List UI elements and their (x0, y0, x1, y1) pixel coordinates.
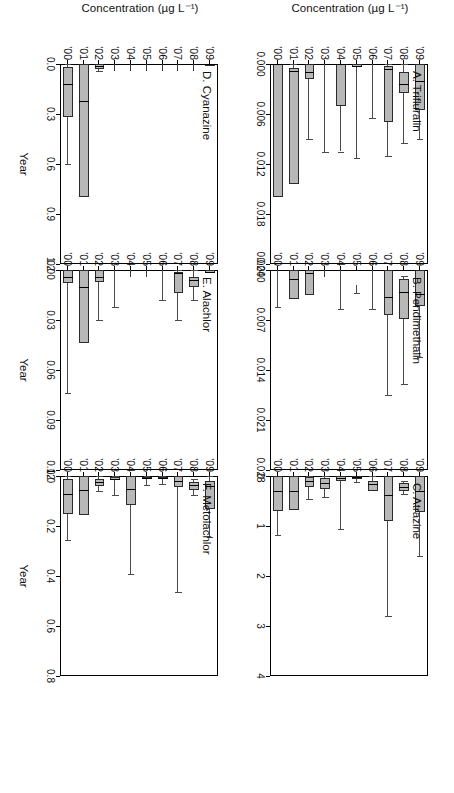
year-tick-label: '04 (335, 458, 347, 472)
year-tick-label: '07 (173, 46, 185, 60)
year-tick-label: '03 (109, 252, 121, 266)
whisker-cap-lower (207, 476, 213, 477)
value-tick-label: 0.000 (255, 257, 266, 282)
year-tick-label: '01 (288, 252, 300, 266)
whisker-cap-upper (417, 556, 423, 557)
value-tick-label: 0.018 (255, 201, 266, 226)
y-axis-title-top: Concentration (µg L⁻¹) (280, 1, 420, 15)
median-line (205, 272, 215, 273)
panel-title-e: E. Alachlor (201, 277, 213, 332)
panel-d: D. Cyanazine0.00.30.60.91.2'00'01'02'03'… (60, 64, 218, 264)
panel-title-a: A. Trifluralin (411, 71, 423, 132)
year-tick-label: '05 (141, 46, 153, 60)
value-tick-mark (56, 264, 60, 265)
year-tick-label: '06 (157, 46, 169, 60)
multi-panel-boxplot-figure: Concentration (µg L⁻¹) Concentration (µg… (0, 0, 454, 793)
year-tick-label: '00 (272, 458, 284, 472)
boxplot-f-09 (60, 476, 218, 676)
value-tick-label: 0.006 (255, 101, 266, 126)
boxplot-a-09 (270, 64, 428, 264)
year-tick-label: '00 (62, 458, 74, 472)
value-tick-mark (56, 676, 60, 677)
value-tick-label: 0.012 (255, 151, 266, 176)
panel-f: F. Metolachlor0.00.20.40.60.8'00'01'02'0… (60, 476, 218, 676)
boxplot-b-09 (270, 270, 428, 470)
year-tick-label: '03 (319, 458, 331, 472)
year-tick-label: '03 (109, 46, 121, 60)
boxplot-e-09 (60, 270, 218, 470)
year-tick-label: '05 (141, 458, 153, 472)
value-tick-label: 0.6 (45, 157, 56, 171)
year-tick-label: '03 (319, 252, 331, 266)
year-tick-label: '01 (78, 252, 90, 266)
year-tick-label: '06 (367, 46, 379, 60)
year-tick-label: '02 (94, 46, 106, 60)
year-tick-label: '04 (125, 252, 137, 266)
year-tick-label: '01 (78, 46, 90, 60)
year-tick-label: '09 (204, 458, 216, 472)
year-tick-label: '09 (414, 458, 426, 472)
panel-title-c: C. Atrazine (411, 483, 423, 539)
x-axis-title-b: Year (18, 270, 30, 470)
value-tick-label: 0 (255, 473, 266, 479)
year-tick-label: '07 (383, 46, 395, 60)
median-line (205, 64, 215, 65)
year-tick-label: '09 (414, 252, 426, 266)
x-axis-title-c: Year (18, 476, 30, 676)
x-axis-title-a: Year (18, 64, 30, 264)
year-tick-label: '08 (398, 458, 410, 472)
year-tick-label: '01 (78, 458, 90, 472)
year-tick-label: '08 (398, 46, 410, 60)
year-tick-label: '00 (62, 46, 74, 60)
value-tick-label: 0.2 (45, 519, 56, 533)
value-tick-label: 0.3 (45, 107, 56, 121)
value-tick-mark (266, 470, 270, 471)
panel-a: A. Trifluralin0.0000.0060.0120.0180.024'… (270, 64, 428, 264)
year-tick-label: '02 (94, 458, 106, 472)
value-tick-label: 0.8 (45, 669, 56, 683)
year-tick-label: '07 (383, 252, 395, 266)
year-tick-label: '05 (141, 252, 153, 266)
year-tick-label: '03 (319, 46, 331, 60)
value-tick-label: 0.021 (255, 407, 266, 432)
value-tick-mark (56, 470, 60, 471)
figure-rotator: Concentration (µg L⁻¹) Concentration (µg… (0, 0, 454, 793)
panel-e: E. Alachlor0.000.030.060.090.12'00'01'02… (60, 270, 218, 470)
whisker-cap-upper (417, 139, 423, 140)
value-tick-label: 0.06 (45, 360, 56, 379)
year-tick-label: '07 (173, 252, 185, 266)
year-tick-label: '02 (94, 252, 106, 266)
year-tick-label: '07 (383, 458, 395, 472)
panel-c: C. Atrazine01234'00'01'02'03'04'05'06'07… (270, 476, 428, 676)
year-tick-label: '09 (414, 46, 426, 60)
value-tick-mark (266, 264, 270, 265)
year-tick-label: '09 (204, 252, 216, 266)
panel-title-d: D. Cyanazine (201, 71, 213, 140)
value-tick-label: 1 (255, 523, 266, 529)
year-tick-label: '04 (335, 46, 347, 60)
year-tick-label: '01 (288, 46, 300, 60)
year-tick-label: '06 (367, 458, 379, 472)
year-tick-label: '08 (398, 252, 410, 266)
year-tick-label: '01 (288, 458, 300, 472)
year-tick-label: '08 (188, 46, 200, 60)
year-tick-label: '02 (304, 458, 316, 472)
value-tick-label: 0.03 (45, 310, 56, 329)
value-tick-label: 0.9 (45, 207, 56, 221)
year-tick-label: '07 (173, 458, 185, 472)
panel-title-f: F. Metolachlor (201, 483, 213, 555)
year-tick-label: '06 (157, 458, 169, 472)
value-tick-label: 0.0 (45, 469, 56, 483)
year-tick-label: '05 (351, 46, 363, 60)
year-tick-label: '06 (367, 252, 379, 266)
boxplot-c-09 (270, 476, 428, 676)
value-tick-label: 2 (255, 573, 266, 579)
year-tick-label: '04 (335, 252, 347, 266)
year-tick-label: '08 (188, 458, 200, 472)
value-tick-label: 0.0 (45, 57, 56, 71)
year-tick-label: '06 (157, 252, 169, 266)
value-tick-label: 4 (255, 673, 266, 679)
value-tick-mark (266, 676, 270, 677)
year-tick-label: '02 (304, 252, 316, 266)
value-tick-label: 0.000 (255, 51, 266, 76)
